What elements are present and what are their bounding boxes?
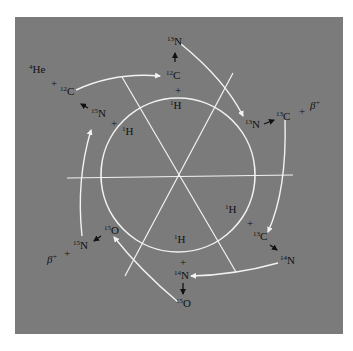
label-n15-left: 15N: [91, 108, 106, 119]
label-n14-bottom: 14N: [174, 270, 189, 281]
arrow-c13-to-n14: [270, 245, 277, 250]
arrow-n15-to-c12: [81, 104, 88, 108]
label-c12-left: 12C: [60, 86, 74, 97]
label-h1-right: 1H: [225, 204, 236, 215]
plus-sign: +: [299, 106, 305, 117]
label-n13-top: 13N: [167, 36, 182, 47]
arrow-c13-to-c13bottom: [268, 120, 285, 232]
label-c13-bottomright: 13C: [253, 231, 267, 242]
plus-sign: +: [247, 218, 253, 229]
label-n14-right: 14N: [280, 255, 295, 266]
label-n13-right: 13N: [245, 119, 260, 130]
arrow-o15-to-o15left: [114, 237, 178, 302]
arrow-o15-to-n15: [94, 236, 101, 241]
label-c13-right: 13C: [276, 111, 290, 122]
label-n15-bottomleft: 15N: [73, 240, 88, 251]
plus-sign: +: [64, 248, 70, 259]
label-c12-top: 12C: [166, 70, 180, 81]
plus-sign: +: [51, 78, 57, 89]
plus-sign: +: [111, 118, 117, 129]
label-beta-plus-left: β+: [47, 254, 57, 265]
arrow-n15-to-n15left: [80, 130, 91, 236]
label-h1-top: 1H: [170, 100, 181, 111]
label-beta-plus-right: β+: [310, 100, 320, 111]
label-he4: 4He: [29, 64, 45, 75]
plus-sign: +: [180, 257, 186, 268]
arrow-c12-to-c12top: [76, 75, 160, 90]
label-h1-topleft: 1H: [122, 126, 133, 137]
label-h1-bottom: 1H: [174, 234, 185, 245]
arrow-n13-to-c13: [264, 120, 274, 124]
central-circle: [101, 98, 255, 252]
label-o15-left: 15O: [104, 225, 119, 236]
plus-sign: +: [175, 85, 181, 96]
label-o15-bottom: 15O: [176, 298, 191, 309]
